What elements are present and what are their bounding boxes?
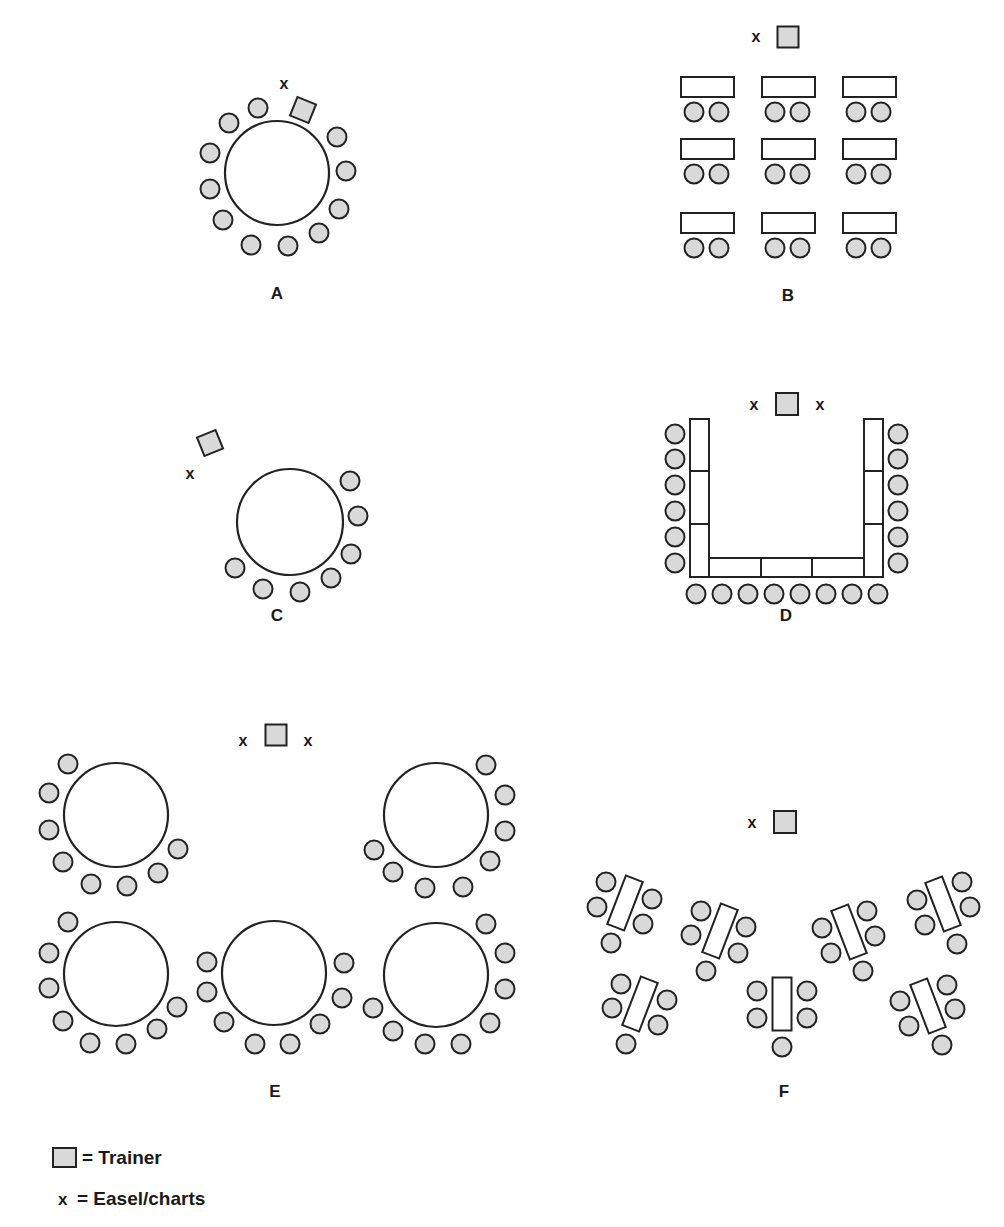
chair-icon xyxy=(148,1020,167,1039)
chair-icon xyxy=(891,992,910,1011)
chair-icon xyxy=(649,1016,668,1035)
chair-icon xyxy=(477,756,496,775)
chair-icon xyxy=(847,239,866,258)
chair-icon xyxy=(843,585,862,604)
chair-icon xyxy=(791,585,810,604)
chair-icon xyxy=(666,476,685,495)
chair-icon xyxy=(82,875,101,894)
chair-icon xyxy=(198,953,217,972)
chair-icon xyxy=(220,114,239,133)
chair-icon xyxy=(416,879,435,898)
easel-icon: x xyxy=(750,396,759,413)
chair-icon xyxy=(330,200,349,219)
chair-icon xyxy=(40,784,59,803)
chair-icon xyxy=(477,915,496,934)
chair-icon xyxy=(40,944,59,963)
chair-icon xyxy=(215,1013,234,1032)
chair-icon xyxy=(710,103,729,122)
chair-icon xyxy=(739,585,758,604)
chair-icon xyxy=(59,755,78,774)
easel-icon: x xyxy=(748,814,757,831)
chair-icon xyxy=(953,873,972,892)
chair-icon xyxy=(729,944,748,963)
chair-icon xyxy=(117,1035,136,1054)
chair-icon xyxy=(291,583,310,602)
chair-icon xyxy=(311,1015,330,1034)
rect-table xyxy=(843,77,896,97)
chair-icon xyxy=(872,239,891,258)
trainer-icon xyxy=(290,97,316,123)
rect-table xyxy=(773,978,792,1031)
chair-icon xyxy=(416,1035,435,1054)
chair-icon xyxy=(869,585,888,604)
round-table xyxy=(222,921,326,1025)
chair-icon xyxy=(889,450,908,469)
chair-icon xyxy=(40,979,59,998)
chair-icon xyxy=(866,927,885,946)
rect-table xyxy=(681,213,734,233)
chair-icon xyxy=(872,165,891,184)
chair-icon xyxy=(246,1035,265,1054)
chair-icon xyxy=(710,165,729,184)
layout-label: B xyxy=(782,286,794,305)
chair-icon xyxy=(333,989,352,1008)
round-table xyxy=(237,469,343,575)
trainer-icon xyxy=(776,393,798,415)
chair-icon xyxy=(916,916,935,935)
rect-table xyxy=(762,139,815,159)
round-table xyxy=(64,763,168,867)
chair-icon xyxy=(798,1009,817,1028)
rect-table xyxy=(843,139,896,159)
chair-icon xyxy=(889,425,908,444)
chair-icon xyxy=(59,913,78,932)
chair-icon xyxy=(765,585,784,604)
chair-icon xyxy=(54,853,73,872)
chair-icon xyxy=(81,1034,100,1053)
easel-icon: x xyxy=(239,732,248,749)
trainer-icon xyxy=(778,27,799,48)
chair-icon xyxy=(889,476,908,495)
chair-icon xyxy=(54,1012,73,1031)
rect-table xyxy=(681,139,734,159)
round-table xyxy=(225,121,329,225)
chair-icon xyxy=(454,878,473,897)
chair-icon xyxy=(766,165,785,184)
rect-table xyxy=(762,77,815,97)
easel-icon: x xyxy=(186,465,195,482)
chair-icon xyxy=(908,891,927,910)
chair-icon xyxy=(281,1035,300,1054)
chair-icon xyxy=(822,944,841,963)
chair-icon xyxy=(961,898,980,917)
chair-icon xyxy=(791,103,810,122)
layout-label: E xyxy=(269,1082,280,1101)
chair-icon xyxy=(685,165,704,184)
chair-icon xyxy=(847,103,866,122)
layout-b: xB xyxy=(681,27,896,306)
chair-icon xyxy=(889,502,908,521)
chair-icon xyxy=(847,165,866,184)
chair-icon xyxy=(713,585,732,604)
legend: = Trainer x = Easel/charts xyxy=(53,1147,205,1209)
easel-icon: x xyxy=(816,396,825,413)
rect-table xyxy=(681,77,734,97)
chair-icon xyxy=(773,1038,792,1057)
layout-f: xF xyxy=(588,811,980,1101)
chair-icon xyxy=(766,103,785,122)
chair-icon xyxy=(201,180,220,199)
chair-icon xyxy=(168,998,187,1017)
layout-label: D xyxy=(780,606,792,625)
easel-icon: x xyxy=(280,75,289,92)
chair-icon xyxy=(496,822,515,841)
chair-icon xyxy=(685,239,704,258)
chair-icon xyxy=(737,918,756,937)
chair-icon xyxy=(710,239,729,258)
rect-table xyxy=(762,213,815,233)
chair-icon xyxy=(933,1036,952,1055)
chair-icon xyxy=(666,554,685,573)
layout-label: C xyxy=(271,606,283,625)
chair-icon xyxy=(658,991,677,1010)
legend-easel-icon: x xyxy=(58,1190,68,1209)
chair-icon xyxy=(597,873,616,892)
chair-icon xyxy=(496,980,515,999)
chair-icon xyxy=(791,239,810,258)
